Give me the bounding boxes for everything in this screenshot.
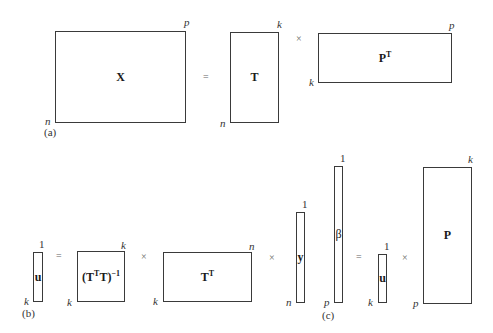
matrix-x-label: X bbox=[116, 70, 125, 85]
vector-u-c: u bbox=[378, 254, 387, 303]
matrix-ttt-inverse-label: (TTT)−1 bbox=[82, 269, 120, 285]
vector-y-rows: n bbox=[286, 297, 292, 308]
pls-matrix-diagram: X p n (a) = T k n × PT p k u 1 k (b) = (… bbox=[0, 0, 493, 333]
matrix-ttt-inverse-rows: k bbox=[67, 297, 72, 308]
vector-y: y bbox=[296, 212, 305, 303]
matrix-t-rows: n bbox=[220, 118, 226, 129]
matrix-p-transpose-rows: k bbox=[309, 77, 314, 88]
matrix-t-transpose-cols: n bbox=[249, 241, 255, 252]
equals-operator-c: = bbox=[356, 252, 362, 262]
times-operator-c: × bbox=[402, 253, 408, 263]
matrix-p-cols: k bbox=[468, 154, 473, 165]
vector-beta-label: β bbox=[335, 227, 341, 242]
vector-u-c-label: u bbox=[379, 271, 386, 286]
times-operator-b2: × bbox=[269, 253, 275, 263]
matrix-ttt-inverse: (TTT)−1 bbox=[77, 251, 125, 302]
matrix-x-cols: p bbox=[184, 17, 190, 28]
matrix-p-label: P bbox=[444, 228, 451, 243]
times-operator-b1: × bbox=[141, 252, 147, 262]
matrix-ttt-inverse-cols: k bbox=[121, 240, 126, 251]
vector-beta-rows: p bbox=[324, 297, 330, 308]
vector-u-b-cols: 1 bbox=[39, 239, 45, 250]
matrix-t-label: T bbox=[250, 70, 258, 85]
matrix-p-transpose-cols: p bbox=[449, 20, 455, 31]
equals-operator-b: = bbox=[56, 251, 62, 261]
vector-y-label: y bbox=[298, 250, 304, 265]
matrix-t-transpose-rows: k bbox=[153, 296, 158, 307]
vector-y-cols: 1 bbox=[302, 199, 308, 210]
vector-u-b-label: u bbox=[35, 270, 42, 285]
matrix-p-rows: p bbox=[413, 298, 419, 309]
vector-u-b: u bbox=[33, 252, 43, 302]
panel-c-label: (c) bbox=[322, 310, 334, 321]
matrix-t: T bbox=[230, 32, 279, 123]
vector-u-c-cols: 1 bbox=[384, 241, 390, 252]
matrix-x: X bbox=[55, 31, 186, 123]
matrix-p-transpose-label: PT bbox=[379, 50, 392, 66]
times-operator-a: × bbox=[296, 34, 302, 44]
panel-b-label: (b) bbox=[22, 308, 35, 319]
equals-operator-a: = bbox=[203, 72, 209, 82]
matrix-p-transpose: PT bbox=[318, 33, 452, 83]
vector-u-b-rows: k bbox=[24, 296, 29, 307]
vector-beta-cols: 1 bbox=[340, 153, 346, 164]
vector-u-c-rows: k bbox=[368, 297, 373, 308]
panel-a-label: (a) bbox=[44, 127, 56, 138]
matrix-t-cols: k bbox=[277, 19, 282, 30]
matrix-t-transpose-label: TT bbox=[201, 269, 214, 285]
vector-beta: β bbox=[334, 166, 343, 303]
matrix-t-transpose: TT bbox=[163, 252, 252, 302]
matrix-p: P bbox=[423, 167, 472, 304]
